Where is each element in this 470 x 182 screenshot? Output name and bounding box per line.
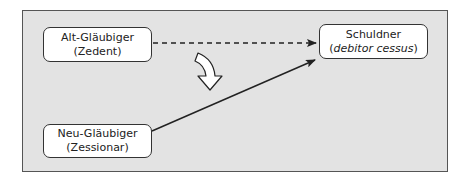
curved-transfer-arrow-icon [195, 53, 222, 90]
latin-term: debitor cessus [334, 42, 414, 55]
paren-close: ) [413, 42, 417, 55]
node-schuldner: Schuldner (debitor cessus) [319, 24, 428, 59]
node-title: Alt-Gläubiger [44, 31, 151, 45]
node-subtitle: (Zessionar) [44, 141, 151, 155]
node-title: Schuldner [320, 28, 427, 42]
node-title: Neu-Gläubiger [44, 127, 151, 141]
solid-arrow-neu-to-schuldner [152, 60, 315, 131]
node-subtitle: (debitor cessus) [320, 42, 427, 56]
node-neu-glaeubiger: Neu-Gläubiger (Zessionar) [43, 124, 152, 158]
node-alt-glaeubiger: Alt-Gläubiger (Zedent) [43, 27, 152, 62]
node-subtitle: (Zedent) [44, 45, 151, 59]
